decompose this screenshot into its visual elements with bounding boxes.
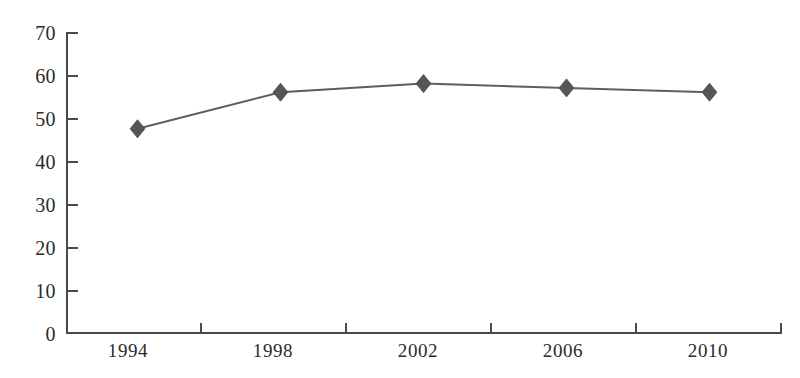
data-point-marker — [416, 75, 431, 93]
data-point-marker — [273, 83, 288, 101]
data-point-marker — [559, 79, 574, 97]
series-markers — [130, 75, 717, 138]
data-point-marker — [130, 120, 145, 138]
plot-area — [0, 0, 800, 378]
line-chart: 70 60 50 40 30 20 10 0 1994 1998 2002 20… — [0, 0, 800, 378]
data-point-marker — [702, 83, 717, 101]
